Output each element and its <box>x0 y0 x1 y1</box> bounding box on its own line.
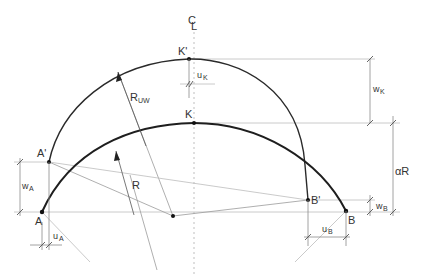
arc-center-point <box>171 214 175 218</box>
label-b: B <box>348 214 355 226</box>
wb-label-sub: B <box>383 205 388 212</box>
ub-label-sub: B <box>328 228 333 235</box>
label-k-prime: K' <box>178 45 187 57</box>
line-b-down <box>295 211 346 262</box>
point-a <box>40 210 44 214</box>
wb-label: w <box>375 201 383 211</box>
wa-label: w <box>21 181 29 191</box>
line-center-b-prime <box>173 200 308 216</box>
label-k: K <box>185 108 193 120</box>
label-a-prime: A' <box>37 147 46 159</box>
chord-a-prime-b-prime <box>49 162 308 200</box>
wk-label-sub: K <box>380 88 385 95</box>
wk-label: w <box>372 84 380 94</box>
label-b-prime: B' <box>311 194 320 206</box>
r-arrowhead-icon <box>114 151 120 161</box>
ua-label-sub: A <box>59 235 64 242</box>
r-label: R <box>132 179 140 191</box>
alpha-r-label: αR <box>395 165 409 177</box>
chord-a-prime-center <box>49 162 173 216</box>
ub-label: u <box>322 224 327 234</box>
ruw-arrow-shaft <box>118 72 146 146</box>
ruw-label: R <box>130 91 138 103</box>
point-k <box>192 121 196 125</box>
ua-label: u <box>53 231 58 241</box>
arch-deformation-diagram: C L R UW R K' K A' A B' B u K w K <box>0 0 423 276</box>
uk-label: u <box>197 70 202 80</box>
ruw-label-sub: UW <box>138 97 150 104</box>
uk-label-sub: K <box>203 74 208 81</box>
centerline-label-sub: L <box>191 20 197 32</box>
wa-label-sub: A <box>29 185 34 192</box>
